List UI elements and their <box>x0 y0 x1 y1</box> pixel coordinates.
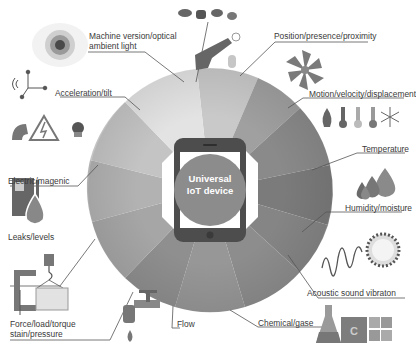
label-electric: Electric/magenic <box>8 176 69 186</box>
center-label-line-1: Universal <box>170 173 250 185</box>
center-label: Universal IoT device <box>170 173 250 197</box>
axis-accelerometer-icon <box>13 70 47 99</box>
label-position: Position/presence/proximity <box>274 31 376 41</box>
label-acoustic: Acoustic sound vibraton <box>307 288 396 298</box>
center-label-line-2: IoT device <box>170 185 250 197</box>
label-motion: Motion/velocity/displacement <box>309 89 416 99</box>
label-flow: Flow <box>177 319 195 329</box>
label-line-1: Force/load/torque <box>10 319 76 329</box>
label-line-2: ambient light <box>89 41 177 51</box>
flask-periodic-table-icon: C <box>316 305 392 343</box>
svg-text:C: C <box>350 325 358 337</box>
water-drops-icon <box>357 168 396 200</box>
clamp-crane-load-icon <box>14 254 68 315</box>
sound-wave-burst-icon <box>322 234 399 276</box>
label-force: Force/load/torque stain/pressure <box>10 319 76 339</box>
eye-lens-icon <box>32 23 88 67</box>
label-chemical: Chemical/gase <box>258 318 313 328</box>
label-machine-vision: Machine version/optical ambient light <box>89 31 177 51</box>
label-humidity: Humidity/moisture <box>345 203 412 213</box>
magnet-high-voltage-icon <box>12 116 84 140</box>
fan-propeller-icon <box>286 50 324 90</box>
label-line-2: stain/pressure <box>10 329 76 339</box>
label-leaks: Leaks/levels <box>8 232 54 242</box>
label-line-1: Machine version/optical <box>89 31 177 41</box>
security-cameras-icon <box>178 9 237 20</box>
thermometers-snowflake-icon <box>323 107 399 128</box>
label-acceleration: Acceleration/tilt <box>55 88 112 98</box>
label-temperature: Temperature <box>362 144 409 154</box>
